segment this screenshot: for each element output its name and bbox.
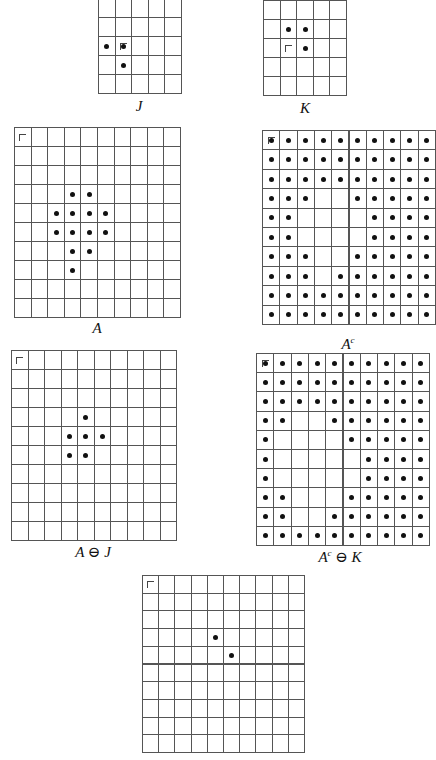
grid-cell	[147, 127, 165, 147]
grid-cell	[44, 426, 62, 446]
grid-cell	[80, 279, 98, 299]
grid-cell	[147, 298, 165, 318]
grid-cell	[98, 74, 116, 94]
pixel-dot	[315, 380, 320, 385]
grid-cell	[288, 734, 305, 753]
grid-cell	[80, 146, 98, 166]
grid-cell	[288, 699, 305, 718]
grid-cell	[14, 222, 32, 242]
pixel-dot	[424, 274, 429, 279]
grid-cell	[160, 483, 178, 503]
pixel-dot	[384, 457, 389, 462]
pixel-dot	[338, 177, 343, 182]
grid-cell	[331, 246, 349, 266]
grid-cell	[61, 464, 79, 484]
grid-cell	[239, 610, 256, 629]
grid-cell	[158, 575, 175, 594]
grid-cell	[158, 681, 175, 700]
grid-cell	[143, 388, 161, 408]
pixel-dot	[390, 196, 395, 201]
grid-cell	[191, 699, 208, 718]
grid-cell	[291, 411, 309, 431]
grid-cell	[31, 165, 49, 185]
pixel-dot	[286, 138, 291, 143]
pixel-dot	[269, 312, 274, 317]
grid-cell	[61, 407, 79, 427]
grid-cell	[158, 593, 175, 612]
grid-cell	[44, 407, 62, 427]
grid-cell	[308, 411, 326, 431]
grid-cell	[158, 664, 175, 683]
grid-cell	[28, 407, 46, 427]
pixel-dot	[121, 63, 126, 68]
grid-cell	[255, 699, 272, 718]
grid-cell	[160, 388, 178, 408]
pixel-dot	[263, 495, 268, 500]
grid-cell	[28, 445, 46, 465]
grid-cell	[291, 507, 309, 527]
grid-cell	[349, 208, 367, 228]
grid-cell	[296, 0, 314, 20]
grid-cell	[114, 203, 132, 223]
grid-cell	[191, 646, 208, 665]
pixel-dot	[67, 434, 72, 439]
grid-cell	[331, 208, 349, 228]
grid-cell	[239, 699, 256, 718]
grid-cell	[47, 298, 65, 318]
grid-cell	[191, 681, 208, 700]
grid-cell	[147, 222, 165, 242]
grid-cell	[127, 350, 145, 370]
grid-cell	[147, 165, 165, 185]
pixel-dot	[303, 274, 308, 279]
grid-cell	[114, 222, 132, 242]
grid-cell	[291, 430, 309, 450]
pixel-dot	[70, 249, 75, 254]
grid-cell	[94, 521, 112, 541]
grid-cell	[160, 426, 178, 446]
grid-cell	[280, 0, 298, 20]
grid-cell	[61, 388, 79, 408]
grid-cell	[239, 575, 256, 594]
pixel-dot	[87, 211, 92, 216]
pixel-dot	[286, 254, 291, 259]
grid-cell	[143, 407, 161, 427]
grid-cell	[14, 165, 32, 185]
grid-cell	[31, 184, 49, 204]
pixel-dot	[384, 495, 389, 500]
pixel-dot	[303, 177, 308, 182]
grid-cell	[164, 0, 182, 18]
grid-cell	[114, 241, 132, 261]
grid-cell	[207, 734, 224, 753]
origin-marker-icon	[147, 581, 154, 588]
grid-cell	[143, 521, 161, 541]
grid-cell	[263, 38, 281, 58]
grid-cell	[143, 350, 161, 370]
pixel-dot	[321, 138, 326, 143]
grid-cell	[44, 369, 62, 389]
grid-cell	[297, 227, 315, 247]
grid-cell	[47, 146, 65, 166]
grid-cell	[158, 610, 175, 629]
pixel-dot	[407, 274, 412, 279]
pixel-dot	[280, 380, 285, 385]
grid-cell	[110, 521, 128, 541]
grid-cell	[31, 127, 49, 147]
pixel-dot	[286, 293, 291, 298]
grid-cell	[47, 279, 65, 299]
grid-cell	[280, 76, 298, 96]
grid-cell	[28, 521, 46, 541]
grid-cell	[147, 146, 165, 166]
pixel-dot	[407, 196, 412, 201]
grid-cell	[114, 260, 132, 280]
pixel-dot	[407, 177, 412, 182]
caption-a-complement-base: A	[341, 336, 350, 352]
origin-marker-icon	[19, 134, 26, 141]
pixel-dot	[100, 434, 105, 439]
grid-cell	[223, 575, 240, 594]
grid-cell	[174, 734, 191, 753]
grid-cell	[163, 222, 181, 242]
grid-cell	[28, 369, 46, 389]
pixel-dot	[297, 361, 302, 366]
grid-cell	[14, 203, 32, 223]
grid-cell	[131, 0, 149, 18]
